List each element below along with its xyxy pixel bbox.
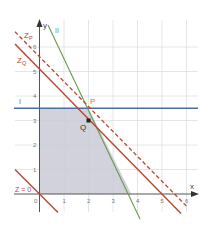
x-tick-1: 1 [63, 198, 67, 204]
point-Q-marker [87, 119, 91, 123]
x-axis-label: x [190, 182, 194, 191]
x-tick-5: 5 [161, 198, 165, 204]
lp-diagram: 0 1 2 3 4 5 6 1 2 3 4 5 6 x y I II Z = 0… [0, 0, 208, 233]
x-tick-6: 6 [185, 198, 189, 204]
line-I-label: I [19, 98, 21, 105]
point-Q-label: Q [80, 123, 86, 132]
line-ZQ-label: ZQ [17, 56, 27, 66]
line-ZP-label: ZP [24, 31, 33, 41]
line-II-label: II [55, 27, 59, 34]
y-axis-label: y [43, 21, 47, 30]
x-tick-3: 3 [112, 198, 116, 204]
feasible-region [40, 108, 132, 194]
x-tick-2: 2 [87, 198, 91, 204]
line-Z0-label: Z = 0 [15, 186, 31, 193]
x-tick-0: 0 [34, 198, 38, 204]
y-axis-arrow-icon [37, 19, 43, 27]
x-axis-arrow-icon [191, 191, 199, 197]
point-P-label: P [90, 97, 95, 106]
x-tick-4: 4 [136, 198, 140, 204]
